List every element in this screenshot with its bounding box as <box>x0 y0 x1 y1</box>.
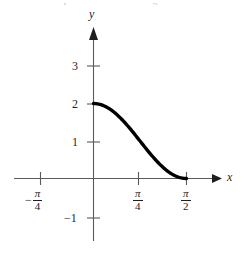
y-tick-label-1: 1 <box>72 136 78 148</box>
y-tick-label-neg1: −1 <box>64 212 77 224</box>
fraction-denominator: 4 <box>133 200 143 213</box>
x-tick-label-pi-over-4: π 4 <box>133 188 143 212</box>
x-axis-label: x <box>227 171 232 183</box>
fraction-denominator: 4 <box>33 200 43 213</box>
fraction-numerator: π <box>181 188 191 200</box>
fraction-numerator: π <box>33 188 43 200</box>
y-axis-arrowhead <box>89 27 98 40</box>
curve-path <box>94 104 187 179</box>
minus-sign: − <box>25 193 33 208</box>
y-tick-label-3: 3 <box>72 60 78 72</box>
fraction-pi-over-4: π 4 <box>133 188 143 212</box>
figure-canvas: 4 2 3 2 1 −1 y x − π 4 <box>0 0 244 257</box>
fraction-pi-over-2: π 2 <box>181 188 191 212</box>
x-tick-label-neg-pi-over-4: − π 4 <box>25 188 42 212</box>
x-axis-arrowhead <box>212 174 222 183</box>
fraction-neg-pi-over-4: π 4 <box>33 188 43 212</box>
fraction-numerator: π <box>133 188 143 200</box>
y-axis-label: y <box>89 8 94 20</box>
coordinate-plot <box>0 0 244 257</box>
fraction-denominator: 2 <box>181 200 191 213</box>
y-tick-label-2: 2 <box>72 98 78 110</box>
x-tick-label-pi-over-2: π 2 <box>181 188 191 212</box>
